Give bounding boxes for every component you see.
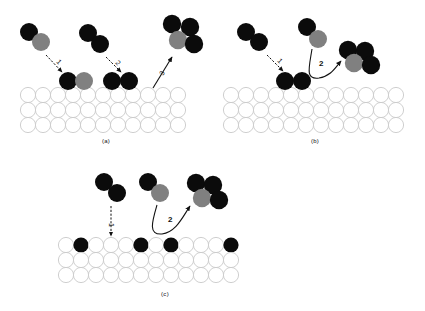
- process-arrow-1-a-label: 1: [55, 58, 63, 66]
- incoming-mixed-dimer-c: [139, 173, 169, 202]
- panel-a: 1 2 3 (a): [0, 0, 213, 160]
- substituted-atom-c-3: [163, 237, 178, 252]
- panel-a-graphic: 1 2 3: [0, 0, 213, 148]
- process-arrow-2-b-label: 2: [319, 59, 324, 68]
- incoming-dark-dimer-c: [95, 173, 126, 202]
- cluster-tetramer-b: [339, 41, 380, 74]
- process-arrow-2-c-label: 2: [168, 215, 173, 224]
- panel-b-label: (b): [295, 138, 335, 144]
- panel-b: 1 2 (b): [213, 0, 425, 160]
- process-arrow-2-a: 2: [106, 57, 122, 72]
- process-arrow-1-c: 1: [108, 206, 115, 236]
- incoming-dark-dimer-a: [79, 24, 109, 53]
- substrate-lattice-a: [20, 87, 185, 132]
- incoming-dark-dimer-b: [237, 23, 268, 51]
- process-arrow-3-a: 3: [153, 57, 172, 88]
- panel-c: 1 2 (c): [0, 160, 310, 311]
- process-arrow-1-b: 1: [267, 55, 284, 71]
- substituted-atom-c-2: [133, 237, 148, 252]
- incoming-mixed-dimer-b: [298, 18, 327, 48]
- process-arrow-2-b: 2: [309, 49, 341, 78]
- adsorbed-dark-dimer-a: [103, 72, 138, 90]
- cluster-tetramer-a: [163, 15, 203, 53]
- process-arrow-1-c-label: 1: [108, 223, 115, 227]
- panel-c-label: (c): [145, 291, 185, 297]
- substituted-atom-c-1: [73, 237, 88, 252]
- panel-a-label: (a): [86, 138, 126, 144]
- process-arrow-2-c: 2: [152, 205, 190, 234]
- panel-c-graphic: 1 2: [0, 160, 310, 300]
- process-arrow-3-a-label: 3: [158, 69, 166, 76]
- substituted-atom-c-4: [223, 237, 238, 252]
- process-arrow-2-a-label: 2: [114, 59, 122, 67]
- substrate-lattice-c: [58, 237, 238, 282]
- cluster-tetramer-c: [187, 174, 228, 209]
- incoming-mixed-dimer-a: [20, 23, 50, 51]
- adsorbed-dark-dimer-b: [276, 72, 311, 90]
- adsorbed-mixed-dimer-a: [59, 72, 93, 90]
- process-arrow-1-a: 1: [46, 55, 63, 72]
- substrate-lattice-b: [223, 87, 403, 132]
- panel-b-graphic: 1 2: [213, 0, 425, 148]
- process-arrow-1-b-label: 1: [276, 57, 284, 65]
